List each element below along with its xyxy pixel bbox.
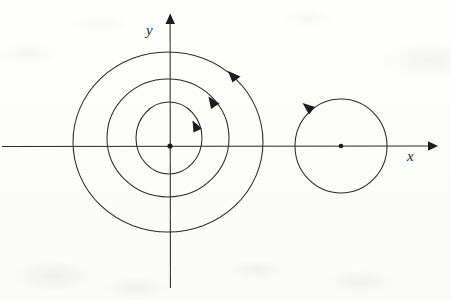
y-axis-arrowhead-icon [166, 14, 176, 25]
x-axis-line [2, 146, 428, 147]
outer-orbit-direction-arrow-icon [228, 71, 241, 83]
middle-orbit-direction-arrow-icon [209, 97, 220, 110]
phase-portrait-canvas [0, 0, 451, 300]
right-orbit-direction-arrow-icon [303, 103, 316, 115]
phase-portrait-figure: y x [0, 0, 451, 300]
middle-orbit-curve [107, 79, 229, 197]
y-axis-label: y [146, 22, 153, 39]
origin-center-dot [167, 143, 172, 148]
inner-orbit-curve [136, 102, 202, 174]
x-axis-label: x [407, 148, 414, 165]
x-axis-arrowhead-icon [428, 141, 438, 151]
right-center-dot [339, 144, 344, 149]
axes-group [2, 14, 438, 289]
